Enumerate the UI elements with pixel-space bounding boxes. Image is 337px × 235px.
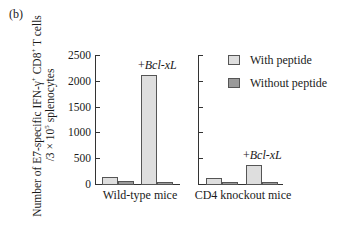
annotation-bcl-xl: +Bcl-xL [243, 148, 282, 163]
y-tick [95, 132, 100, 133]
bar-without-peptide [118, 181, 134, 185]
y-tick [95, 55, 100, 56]
ylabel-cd8: CD8 [31, 53, 43, 78]
y-tick-label: 2500 [55, 49, 91, 61]
legend-swatch-with-peptide [228, 55, 240, 65]
x-axis-label: CD4 knockout mice [193, 188, 293, 203]
ylabel-gamma: γ [31, 81, 43, 86]
legend-label-without-peptide: Without peptide [250, 77, 327, 89]
bar-with-peptide [246, 165, 262, 185]
annotation-bcl-xl: +Bcl-xL [138, 58, 177, 73]
bar-without-peptide [222, 182, 238, 185]
y-tick [95, 81, 100, 82]
bar-with-peptide [141, 75, 157, 185]
y-tick-label: 1500 [55, 101, 91, 113]
panel-label: (b) [9, 7, 23, 22]
bar-without-peptide [157, 182, 173, 185]
y-tick-label: 2000 [55, 75, 91, 87]
y-axis-label-line1: Number of E7-specific IFN-γ+ CD8+ T cell… [31, 11, 43, 221]
y-tick-label: 0 [55, 178, 91, 190]
y-tick [198, 55, 203, 56]
y-tick [95, 107, 100, 108]
ylabel-text: Number of E7-specific IFN- [31, 86, 43, 217]
y-tick-label: 500 [55, 152, 91, 164]
y-axis-line [95, 55, 96, 185]
ylabel-sup: + [30, 77, 38, 81]
bar-with-peptide [102, 177, 118, 185]
legend-swatch-without-peptide [228, 78, 240, 88]
ylabel-sup: + [30, 49, 38, 53]
y-tick [198, 132, 203, 133]
y-tick [198, 107, 203, 108]
y-axis-line [198, 55, 199, 185]
y-tick [95, 158, 100, 159]
y-tick [198, 81, 203, 82]
x-axis-label: Wild-type mice [90, 188, 190, 203]
bar-with-peptide [206, 178, 222, 185]
bar-without-peptide [262, 182, 278, 185]
ylabel-tcells: T cells [31, 15, 43, 48]
legend-label-with-peptide: With peptide [250, 54, 312, 66]
y-tick [198, 158, 203, 159]
ylabel-exponent: 5 [43, 125, 51, 129]
y-tick-label: 1000 [55, 126, 91, 138]
